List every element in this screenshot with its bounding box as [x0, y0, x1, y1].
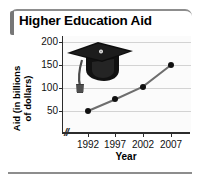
data-series-line: [62, 36, 190, 132]
x-tick-label-2007: 2007: [154, 139, 188, 150]
data-point-2002: [140, 84, 146, 90]
x-tick-mark-1992: [88, 132, 89, 137]
x-tick-mark-1997: [115, 132, 116, 137]
data-point-1997: [112, 96, 118, 102]
data-point-1992: [85, 108, 91, 114]
chart-title: Higher Education Aid: [19, 13, 152, 28]
y-tick-label-200: 200: [22, 36, 58, 47]
figure-frame-accent-bar: [10, 11, 14, 35]
footer-divider: [8, 172, 192, 174]
footer-clipped-text: [10, 176, 190, 184]
data-point-2007: [168, 62, 174, 68]
y-tick-label-50: 50: [22, 105, 58, 116]
x-axis-title: Year: [62, 151, 190, 162]
y-axis-title-line-1: Aid (in billions: [11, 66, 22, 131]
y-tick-label-150: 150: [22, 59, 58, 70]
x-axis-break-symbol: //: [64, 127, 68, 138]
x-tick-mark-2002: [143, 132, 144, 137]
y-tick-label-100: 100: [22, 82, 58, 93]
chart-figure: Higher Education Aid Aid (in billions of…: [0, 0, 200, 184]
x-tick-mark-2007: [171, 132, 172, 137]
